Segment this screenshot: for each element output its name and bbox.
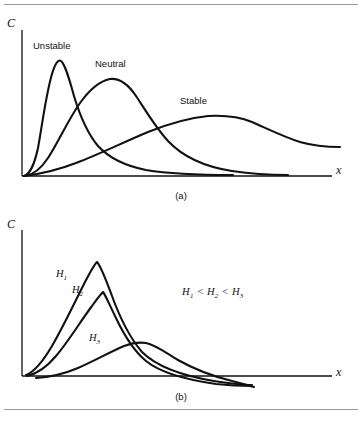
curve-label-h2: H2 xyxy=(72,285,83,298)
curve-label-h3-base: H xyxy=(89,332,97,343)
panel-a: C Unstable Neutral Stable xyxy=(0,8,362,208)
curve-label-h3-sub: 3 xyxy=(97,338,101,346)
curve-label-h1: H1 xyxy=(56,269,67,282)
panel-b xyxy=(0,208,362,408)
stack-height-inequality-annotation: H1 < H2 < H3 xyxy=(182,287,244,300)
inequality-h3: H xyxy=(232,286,240,297)
curve-label-h3: H3 xyxy=(89,333,100,346)
panel-a-y-axis-label: C xyxy=(7,17,15,29)
curve-neutral xyxy=(25,79,288,176)
panel-b-x-axis-label: x xyxy=(336,366,341,378)
curve-label-h1-base: H xyxy=(56,268,64,279)
curve-unstable xyxy=(24,61,233,176)
curve-label-h2-sub: 2 xyxy=(80,290,84,298)
inequality-op1: < xyxy=(194,286,207,297)
curve-label-h2-base: H xyxy=(72,284,80,295)
inequality-op2: < xyxy=(219,286,232,297)
curve-h3 xyxy=(36,343,254,387)
bottom-divider-rule xyxy=(4,409,358,410)
panel-a-caption: (a) xyxy=(0,191,362,201)
inequality-h1: H xyxy=(182,286,190,297)
curve-label-stable: Stable xyxy=(180,96,207,106)
panel-b-plot xyxy=(0,208,362,408)
inequality-h3-sub: 3 xyxy=(240,292,244,300)
panel-b-caption: (b) xyxy=(0,392,362,402)
panel-a-x-axis-label: x xyxy=(336,164,341,176)
curve-label-unstable: Unstable xyxy=(33,41,71,51)
curve-stable xyxy=(24,116,340,176)
curve-h2 xyxy=(27,292,252,386)
top-divider-rule xyxy=(4,4,358,5)
panel-a-plot xyxy=(0,8,362,208)
curve-label-h1-sub: 1 xyxy=(64,274,68,282)
curve-label-neutral: Neutral xyxy=(95,59,126,69)
panel-b-y-axis-label: C xyxy=(7,218,15,230)
inequality-h2: H xyxy=(207,286,215,297)
figure-root: C Unstable Neutral Stable x (a) C x H1 H… xyxy=(0,0,362,422)
